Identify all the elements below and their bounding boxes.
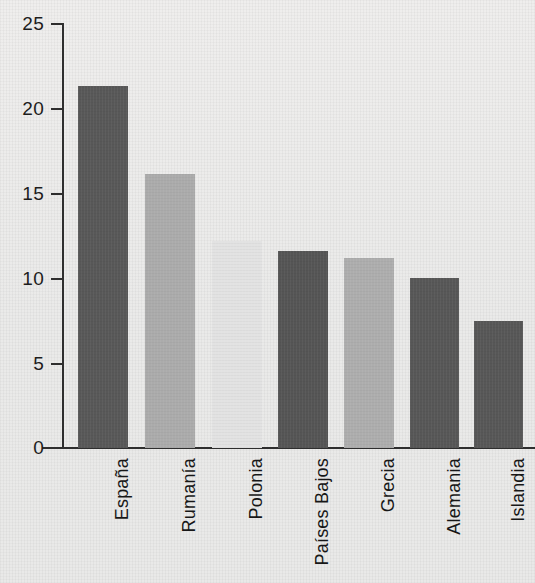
y-tick-mark bbox=[51, 278, 63, 280]
y-tick-15: 15 bbox=[0, 193, 63, 195]
bar-alemania[interactable] bbox=[410, 278, 459, 448]
bar-islandia[interactable] bbox=[474, 321, 523, 449]
bar-fill bbox=[212, 241, 262, 448]
y-tick-label: 15 bbox=[6, 184, 44, 203]
x-label-alemania: Alemania bbox=[444, 458, 465, 535]
bar-fill bbox=[410, 278, 459, 448]
bar-fill bbox=[474, 321, 523, 449]
bar-espana[interactable] bbox=[78, 86, 128, 448]
x-label-espana: España bbox=[112, 458, 133, 520]
y-tick-10: 10 bbox=[0, 278, 63, 280]
x-label-paises-bajos: Países Bajos bbox=[312, 458, 333, 565]
y-tick-label: 10 bbox=[6, 269, 44, 288]
bar-fill bbox=[78, 86, 128, 448]
y-tick-mark bbox=[51, 193, 63, 195]
y-tick-mark bbox=[51, 23, 63, 25]
y-tick-25: 25 bbox=[0, 23, 63, 25]
bar-paises-bajos[interactable] bbox=[278, 251, 328, 448]
y-tick-label: 5 bbox=[6, 354, 44, 373]
bar-grecia[interactable] bbox=[344, 258, 394, 448]
bar-fill bbox=[278, 251, 328, 448]
y-axis-line bbox=[62, 23, 64, 449]
x-label-islandia: Islandia bbox=[508, 458, 529, 522]
y-tick-label: 20 bbox=[6, 99, 44, 118]
y-tick-mark bbox=[51, 108, 63, 110]
y-tick-20: 20 bbox=[0, 108, 63, 110]
y-tick-5: 5 bbox=[0, 363, 63, 365]
bar-fill bbox=[344, 258, 394, 448]
x-label-grecia: Grecia bbox=[378, 458, 399, 512]
bar-chart: 25 20 15 10 5 0 bbox=[0, 0, 535, 583]
y-tick-label: 0 bbox=[6, 438, 44, 457]
x-label-polonia: Polonia bbox=[246, 458, 267, 519]
y-tick-label: 25 bbox=[6, 14, 44, 33]
y-tick-0: 0 bbox=[0, 447, 63, 449]
bar-rumania[interactable] bbox=[145, 174, 195, 448]
y-tick-mark bbox=[51, 447, 63, 449]
bar-fill bbox=[145, 174, 195, 448]
plot-area: 25 20 15 10 5 0 bbox=[0, 0, 535, 583]
bar-polonia[interactable] bbox=[212, 241, 262, 448]
y-tick-mark bbox=[51, 363, 63, 365]
x-label-rumania: Rumanía bbox=[179, 458, 200, 532]
